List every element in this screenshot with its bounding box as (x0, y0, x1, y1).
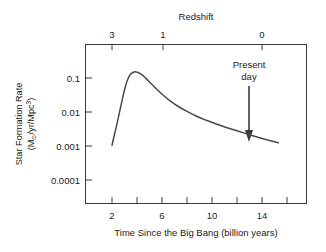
y-axis-title-line2: (M⊙/yr/Mpc3) (25, 98, 38, 150)
top-axis-title: Redshift (179, 11, 214, 22)
y-axis-title: Star Formation Rate (14, 83, 24, 166)
y-axis-title-line1: Star Formation Rate (14, 83, 24, 166)
y-tick-label-1: 0.01 (62, 107, 81, 118)
y-axis-title-units: (M⊙/yr/Mpc3) (25, 98, 38, 150)
x-tick-label-10: 10 (207, 210, 218, 221)
units-mid: /yr/Mpc (26, 104, 36, 135)
x-axis-ticks (112, 197, 287, 204)
plot-frame (86, 45, 307, 204)
x-tick-label-6: 6 (159, 210, 164, 221)
y-tick-label-0: 0.1 (67, 73, 80, 84)
top-tick-label-z1: 1 (160, 29, 165, 40)
star-formation-rate-chart: Redshift 3 1 0 0.1 0.01 0.001 0.0001 Sta… (0, 0, 326, 252)
top-tick-label-z3: 3 (109, 29, 114, 40)
top-tick-label-z0: 0 (259, 29, 264, 40)
y-tick-label-3: 0.0001 (51, 175, 80, 186)
x-tick-label-14: 14 (257, 210, 268, 221)
y-axis-ticks (86, 78, 93, 180)
units-prefix: (M (26, 140, 36, 151)
x-tick-label-2: 2 (109, 210, 114, 221)
units-suffix: ) (26, 98, 36, 101)
x-axis-title: Time Since the Big Bang (billion years) (114, 227, 277, 238)
chart-canvas: Redshift 3 1 0 0.1 0.01 0.001 0.0001 Sta… (0, 0, 326, 252)
present-day-label-line2: day (241, 71, 257, 82)
star-formation-rate-curve (112, 72, 278, 145)
y-tick-label-2: 0.001 (56, 141, 80, 152)
present-day-label-line1: Present (233, 59, 266, 70)
